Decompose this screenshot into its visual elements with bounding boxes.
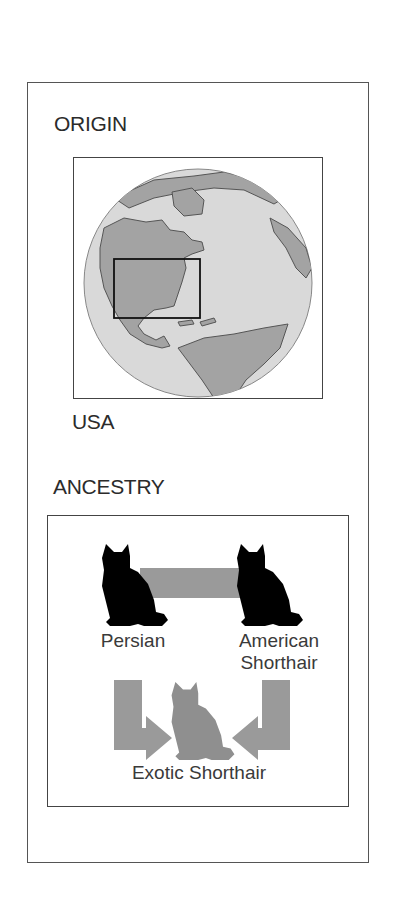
ancestry-heading: ANCESTRY	[53, 475, 165, 499]
origin-country: USA	[72, 410, 114, 434]
origin-heading: ORIGIN	[54, 112, 127, 136]
exotic-shorthair-cat-icon	[168, 680, 238, 760]
origin-map-frame	[73, 157, 323, 399]
globe-icon	[74, 158, 322, 398]
ancestry-diagram: Persian American Shorthair Exotic Shorth…	[47, 515, 349, 807]
persian-label: Persian	[88, 630, 178, 652]
arrow-left-icon	[230, 680, 290, 760]
arrow-right-icon	[114, 680, 174, 760]
american-shorthair-cat-icon	[235, 542, 305, 626]
exotic-shorthair-label: Exotic Shorthair	[88, 762, 310, 784]
american-shorthair-label-line1: American	[224, 630, 334, 652]
persian-cat-icon	[100, 542, 170, 626]
american-shorthair-label-line2: Shorthair	[224, 652, 334, 674]
